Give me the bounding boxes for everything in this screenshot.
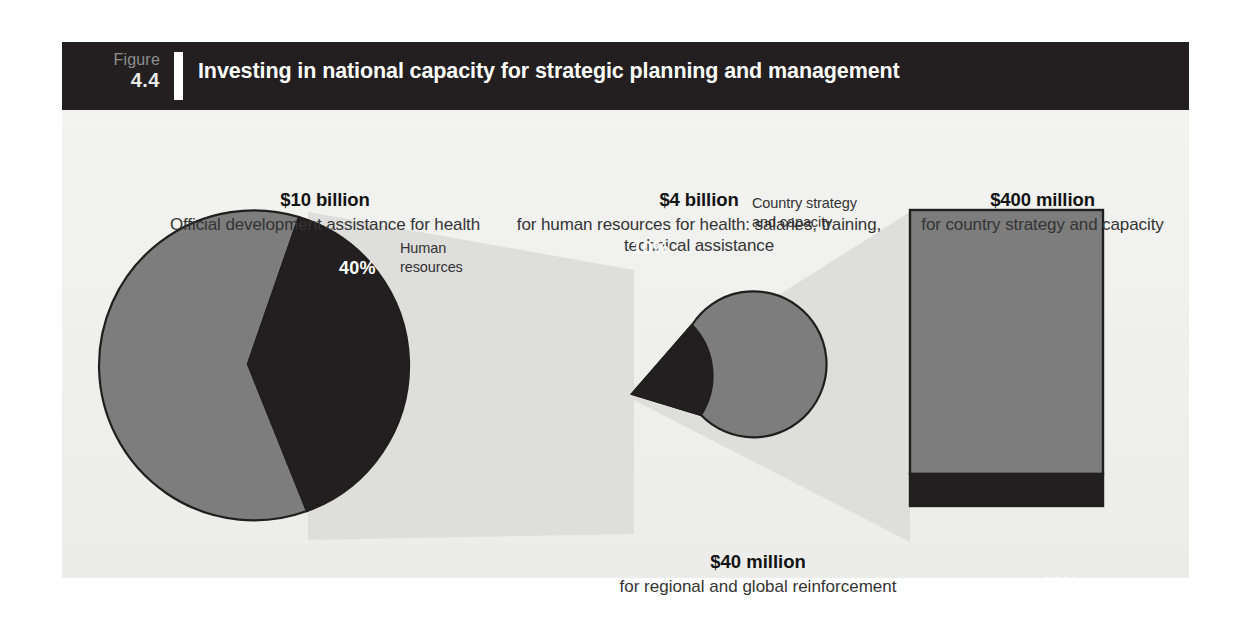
title-divider-rule xyxy=(174,52,183,100)
bar-chart-country-capacity xyxy=(910,210,1103,506)
pie-chart-oda xyxy=(99,210,409,520)
value-label-human-resources-percent: 40% xyxy=(339,258,376,279)
caption-oda-description: Official development assistance for heal… xyxy=(140,214,510,236)
figure-graphics xyxy=(62,110,1189,578)
figure-label-word: Figure xyxy=(76,51,160,69)
caption-global-description: for regional and global reinforcement xyxy=(558,576,958,598)
caption-country-description: for country strategy and capacity xyxy=(900,214,1185,236)
caption-oda: $10 billion Official development assista… xyxy=(140,188,510,235)
caption-country: $400 million for country strategy and ca… xyxy=(900,188,1185,235)
caption-country-amount: $400 million xyxy=(900,188,1185,212)
figure-panel: Figure 4.4 Investing in national capacit… xyxy=(62,42,1189,578)
value-label-country-strategy-percent: 10% xyxy=(632,238,669,259)
figure-body: $10 billion Official development assista… xyxy=(62,110,1189,578)
caption-global: $40 million for regional and global rein… xyxy=(558,550,958,597)
figure-header-bar: Figure 4.4 Investing in national capacit… xyxy=(62,42,1189,110)
annotation-human-resources: Human resources xyxy=(400,239,490,278)
pie-chart-hrh xyxy=(632,291,827,437)
value-label-regional-global-percent: 10% xyxy=(1042,574,1079,595)
caption-global-amount: $40 million xyxy=(558,550,958,574)
figure-number: 4.4 xyxy=(76,69,160,91)
annotation-country-strategy: Country strategy and capacity xyxy=(752,194,882,233)
caption-oda-amount: $10 billion xyxy=(140,188,510,212)
bar-segment-regional-global xyxy=(910,474,1103,506)
figure-number-block: Figure 4.4 xyxy=(76,51,160,91)
bar-segment-national xyxy=(910,210,1103,474)
figure-title: Investing in national capacity for strat… xyxy=(198,59,900,84)
figure-screenshot: Figure 4.4 Investing in national capacit… xyxy=(0,0,1248,620)
